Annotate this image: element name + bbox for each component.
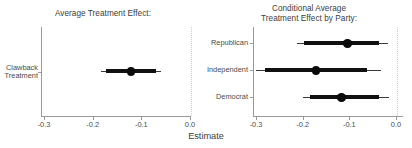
panel-average-treatment-effect: Average Treatment Effect: Clawback Treat…: [0, 0, 206, 148]
x-tick-label-left-2: -0.2: [79, 120, 107, 129]
x-tick-label-right-4: 0.0: [382, 120, 410, 129]
panel-left-title: Average Treatment Effect:: [0, 9, 206, 19]
panel-right-title: Conditional Average Treatment Effect by …: [206, 4, 412, 24]
x-tick-label-left-4: 0.0: [176, 120, 204, 129]
y-category-label-clawback-treatment: Clawback Treatment: [2, 64, 38, 81]
interval-row-independent: [254, 65, 403, 77]
x-tick-label-left-1: -0.3: [30, 120, 58, 129]
inner-interval-republican: [304, 41, 379, 45]
interval-row-democrat: [254, 92, 403, 104]
plot-area-right: [253, 27, 403, 117]
panel-left-title-line1: Average Treatment Effect:: [0, 9, 206, 19]
interval-row-republican: [254, 38, 403, 50]
point-estimate-democrat: [337, 93, 346, 102]
x-tick-label-right-3: -0.1: [335, 120, 363, 129]
y-category-label-independent: Independent: [198, 66, 248, 74]
point-estimate-republican: [343, 39, 352, 48]
x-axis-title: Estimate: [0, 131, 412, 141]
point-estimate-independent: [312, 66, 321, 75]
dot-whisker-figure: Average Treatment Effect: Clawback Treat…: [0, 0, 412, 148]
point-estimate-clawback: [127, 67, 136, 76]
y-category-label-republican: Republican: [200, 39, 248, 47]
panel-conditional-average-treatment-effect: Conditional Average Treatment Effect by …: [206, 0, 412, 148]
y-category-label-democrat: Democrat: [200, 93, 248, 101]
x-tick-label-right-1: -0.3: [242, 120, 270, 129]
plot-area-left: [41, 27, 191, 117]
interval-row-clawback-treatment: [42, 66, 191, 78]
panel-right-title-line1: Conditional Average: [206, 4, 412, 14]
x-tick-label-right-2: -0.2: [289, 120, 317, 129]
x-tick-label-left-3: -0.1: [127, 120, 155, 129]
zero-reference-line-left: [191, 27, 192, 116]
panel-right-title-line2: Treatment Effect by Party:: [206, 14, 412, 24]
